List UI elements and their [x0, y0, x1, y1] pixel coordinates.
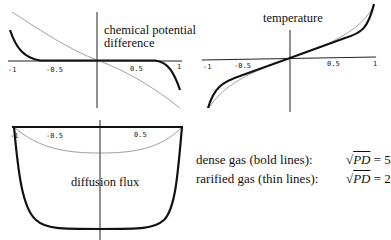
equation-variable: PD	[353, 152, 370, 167]
equation-value: = 2	[374, 171, 391, 186]
tick-m1: -1	[8, 66, 16, 74]
chart-title-line1: chemical potential	[104, 23, 197, 37]
legend-dense: dense gas (bold lines): √PD = 5	[196, 152, 313, 168]
equation-value: = 5	[374, 152, 391, 167]
chart-title: temperature	[263, 11, 323, 25]
tick-p1: 1	[373, 60, 377, 68]
tick-p05: 0.5	[327, 60, 340, 68]
tick-p1: 1	[177, 63, 181, 71]
tick-p05: 0.5	[130, 65, 143, 73]
chart-diffusion-flux: -1 -0.5 0.5 diffusion flux	[10, 120, 183, 240]
legend-equation: √PD = 5	[346, 152, 391, 168]
chart-chemical-potential: -1 -0.5 0.5 1 chemical potential differe…	[8, 12, 197, 108]
tick-m05: -0.5	[234, 62, 251, 70]
chart-title: diffusion flux	[71, 175, 140, 189]
legend-rarified: rarified gas (thin lines): √PD = 2	[196, 171, 318, 187]
legend-label: rarified gas (thin lines):	[196, 171, 318, 186]
tick-m1: -1	[203, 63, 211, 71]
tick-m05: -0.5	[46, 66, 63, 74]
chart-temperature: -1 -0.5 0.5 1 temperature	[202, 4, 377, 112]
tick-m05: -0.5	[46, 132, 63, 140]
legend-label: dense gas (bold lines):	[196, 152, 313, 167]
chart-title-line2: difference	[104, 36, 155, 50]
tick-m1: -1	[10, 132, 18, 140]
equation-variable: PD	[353, 171, 370, 186]
bold-curve	[10, 30, 180, 90]
thin-curve	[14, 127, 182, 153]
legend-equation: √PD = 2	[346, 171, 391, 187]
tick-p05: 0.5	[134, 131, 147, 139]
